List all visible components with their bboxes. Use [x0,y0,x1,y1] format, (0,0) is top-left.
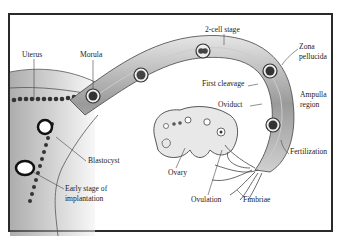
blastocyst-embryo [38,120,52,134]
fertilized-egg [266,118,280,132]
two-cell-embryo [196,44,210,58]
implanting-embryo [16,161,34,175]
label-fimbriae: Fimbriae [243,194,270,205]
label-ampulla-2: region [300,99,319,110]
label-two-cell-stage: 2-cell stage [205,24,240,35]
reproductive-tract-illustration [0,0,341,238]
label-oviduct: Oviduct [218,99,242,110]
label-morula: Morula [80,49,102,60]
label-ovary: Ovary [168,167,187,178]
label-zona-pellucida-2: pellucida [299,51,327,62]
label-blastocyst: Blastocyst [88,155,120,166]
zygote-embryo [263,64,277,78]
morula-embryo [86,89,100,103]
label-uterus: Uterus [22,49,42,60]
ovary [154,107,238,158]
label-implantation-2: implantation [65,193,103,204]
cleavage-embryo [134,68,148,82]
label-fertilization: Fertilization [290,146,327,157]
label-ovulation: Ovulation [191,194,221,205]
label-first-cleavage: First cleavage [202,78,244,89]
